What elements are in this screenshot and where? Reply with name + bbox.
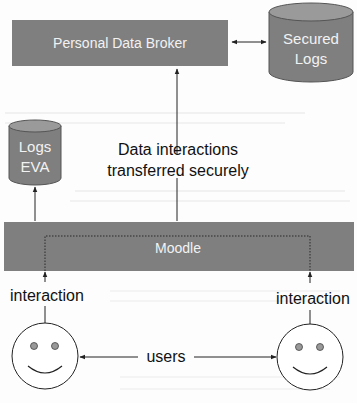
logs-eva-label-line1: Logs [19,138,52,155]
transfer-label-line2: transferred securely [107,162,248,179]
transfer-label-line1: Data interactions [118,141,238,158]
secured-logs-label-line2: Logs [295,50,328,67]
moodle-node: Moodle [4,222,354,271]
users-label: users [146,348,185,365]
logs-eva-database-icon: Logs EVA [9,120,61,185]
personal-data-broker-node: Personal Data Broker [12,20,228,66]
architecture-diagram: Personal Data Broker Secured Logs Logs E… [0,0,357,403]
moodle-label: Moodle [155,240,201,256]
broker-label: Personal Data Broker [53,35,187,51]
logs-eva-label-line2: EVA [21,158,50,175]
left-interaction-label: interaction [10,287,84,304]
secured-logs-database-icon: Secured Logs [269,3,353,82]
smiley-face-icon [12,323,78,389]
smiley-face-icon [277,324,343,390]
secured-logs-label-line1: Secured [283,30,339,47]
right-interaction-label: interaction [276,290,350,307]
